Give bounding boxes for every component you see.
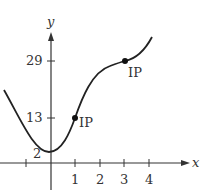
y-axis-arrow-icon <box>48 32 54 41</box>
inflection-point-2 <box>122 58 128 64</box>
y-tick-label-29: 29 <box>26 53 43 68</box>
inflection-label-1: IP <box>79 115 93 130</box>
x-tick-label-1: 1 <box>71 172 79 187</box>
inflection-point-1 <box>72 115 78 121</box>
x-tick-label-3: 3 <box>120 172 128 187</box>
y-tick-label-13: 13 <box>26 110 43 125</box>
inflection-label-2: IP <box>128 65 142 80</box>
x-tick-label-2: 2 <box>96 172 104 187</box>
function-graph: x y 1 2 3 4 29 13 2 IP IP <box>0 0 201 190</box>
x-axis-arrow-icon <box>181 160 190 166</box>
y-axis-label: y <box>46 14 55 29</box>
x-tick-label-4: 4 <box>145 172 153 187</box>
x-axis-label: x <box>192 155 200 170</box>
